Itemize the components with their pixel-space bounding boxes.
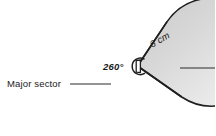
sector-diagram-figure: 260° 6 cm Major sector	[0, 0, 215, 136]
major-sector-callout-label: Major sector	[7, 78, 61, 89]
angle-vertex-tick	[136, 60, 140, 73]
diagram-canvas: 260° 6 cm Major sector	[0, 0, 215, 136]
angle-label-260: 260°	[102, 61, 123, 72]
major-sector-shape	[138, 0, 216, 106]
